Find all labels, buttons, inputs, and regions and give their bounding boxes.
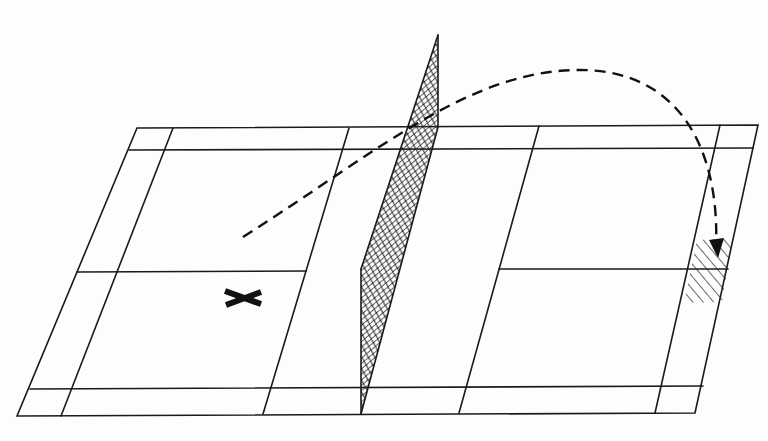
- shuttle-trajectory: [243, 70, 724, 258]
- badminton-court-diagram: Perspective view of a badminton court wi…: [0, 0, 768, 441]
- court-svg: [0, 0, 768, 441]
- net-mesh: [361, 35, 438, 414]
- target-area: [684, 238, 733, 303]
- player-marker: [225, 291, 261, 305]
- trajectory-dashed-arc: [243, 70, 716, 248]
- long-service-line-far: [129, 148, 753, 150]
- hatched-target-zone: [684, 238, 733, 303]
- net: [361, 35, 438, 414]
- left-center-line: [77, 271, 306, 272]
